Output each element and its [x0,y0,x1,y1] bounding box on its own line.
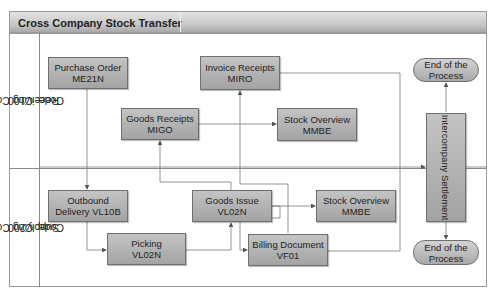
node-code: Delivery VL10B [55,206,120,217]
node-code: MIGO [147,124,172,135]
node-end-top[interactable]: End of the Process [413,58,479,82]
node-outbound-delivery[interactable]: Outbound Delivery VL10B [48,190,128,222]
node-billing-document[interactable]: Billing Document VF01 [248,234,328,266]
node-picking[interactable]: Picking VL02N [107,233,186,265]
node-label: Intercompany Settlement [441,115,452,221]
node-purchase-order[interactable]: Purchase Order ME21N [48,57,128,89]
node-goods-receipts[interactable]: Goods Receipts MIGO [121,108,199,140]
node-label: Goods Issue [205,195,258,206]
node-label: Goods Receipts [126,113,194,124]
node-label: Invoice Receipts [205,62,275,73]
node-label-2: Process [429,70,463,81]
node-invoice-receipts[interactable]: Invoice Receipts MIRO [200,56,280,90]
node-end-bottom[interactable]: End of the Process [413,240,479,265]
node-label: Picking [131,238,162,249]
node-label: Stock Overview [323,195,389,206]
node-stock-overview-receiving[interactable]: Stock Overview MMBE [277,108,357,141]
node-label: Purchase Order [54,62,121,73]
node-code: VL02N [132,249,161,260]
node-intercompany-settlement[interactable]: Intercompany Settlement [426,113,466,222]
node-goods-issue[interactable]: Goods Issue VL02N [192,190,272,222]
node-label: End of the [424,242,467,253]
node-code: ME21N [72,73,104,84]
node-label-2: Process [429,253,463,264]
node-stock-overview-supplying[interactable]: Stock Overview MMBE [316,190,396,222]
node-code: MIRO [228,73,253,84]
node-label: Outbound [67,195,109,206]
node-label: End of the [424,59,467,70]
node-label: Stock Overview [284,114,350,125]
node-label: Billing Document [252,239,323,250]
node-code: VF01 [277,250,300,261]
node-code: MMBE [303,125,332,136]
node-code: MMBE [342,206,371,217]
node-code: VL02N [217,206,246,217]
